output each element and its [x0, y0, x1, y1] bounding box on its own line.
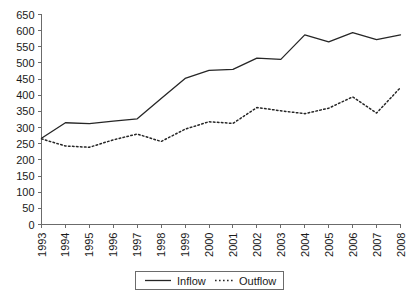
line-chart: 050100150200250300350400450500550600650 … [0, 0, 418, 297]
y-tick-label: 600 [16, 25, 34, 37]
y-tick-label: 150 [16, 170, 34, 182]
x-tick-label: 1999 [179, 233, 191, 257]
x-tick-label: 2003 [275, 233, 287, 257]
x-tick-label: 1996 [107, 233, 119, 257]
chart-legend: InflowOutflow [135, 272, 283, 290]
x-axis: 1993199419951996199719981999200020012002… [36, 225, 407, 257]
chart-canvas: 050100150200250300350400450500550600650 … [0, 0, 418, 297]
x-tick-label: 2001 [227, 233, 239, 257]
y-tick-label: 200 [16, 154, 34, 166]
y-tick-label: 300 [16, 122, 34, 134]
x-tick-label: 2006 [347, 233, 359, 257]
legend-label-inflow: Inflow [177, 275, 206, 287]
y-tick-label: 550 [16, 41, 34, 53]
x-tick-label: 2007 [371, 233, 383, 257]
x-tick-label: 1997 [131, 233, 143, 257]
y-tick-label: 100 [16, 186, 34, 198]
legend-label-outflow: Outflow [239, 275, 276, 287]
x-tick-label: 1993 [36, 233, 48, 257]
y-tick-label: 450 [16, 73, 34, 85]
x-tick-label: 1998 [155, 233, 167, 257]
x-tick-label: 2000 [203, 233, 215, 257]
y-tick-label: 50 [22, 202, 34, 214]
series-line-outflow [42, 88, 401, 148]
x-tick-label: 1994 [59, 233, 71, 257]
y-tick-label: 350 [16, 105, 34, 117]
y-tick-label: 0 [28, 219, 34, 231]
x-tick-label: 2005 [323, 233, 335, 257]
x-tick-label: 2004 [299, 233, 311, 257]
x-tick-label: 1995 [83, 233, 95, 257]
y-axis: 050100150200250300350400450500550600650 [16, 9, 41, 231]
x-tick-label: 2002 [251, 233, 263, 257]
data-series-group [42, 33, 401, 148]
y-tick-label: 500 [16, 57, 34, 69]
y-tick-label: 250 [16, 138, 34, 150]
y-tick-label: 650 [16, 9, 34, 21]
x-tick-label: 2008 [395, 233, 407, 257]
y-tick-label: 400 [16, 89, 34, 101]
